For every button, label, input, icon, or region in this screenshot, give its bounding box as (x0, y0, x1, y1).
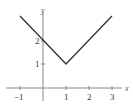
x-axis-label: x (124, 84, 129, 93)
xtick-label: −1 (14, 92, 24, 102)
ytick-label: 1 (35, 59, 40, 69)
xtick-label: 1 (64, 92, 69, 102)
xtick-label: 2 (87, 92, 92, 102)
data-line (20, 16, 112, 64)
chart: y x −1 1 2 3 1 2 (0, 0, 133, 107)
ytick-label: 2 (35, 36, 40, 46)
y-axis-label: y (40, 6, 45, 15)
xtick-label: 3 (110, 92, 115, 102)
